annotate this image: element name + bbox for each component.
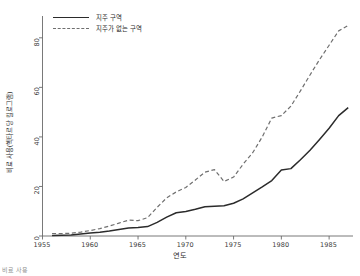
legend-label-landlord: 지주 구역: [89, 13, 122, 22]
x-tick-label: 1975: [225, 241, 242, 249]
legend-item-no-landlord: 지주가 없는 구역: [53, 23, 183, 34]
y-tick-label: 0: [33, 236, 41, 252]
x-tick-label: 1965: [129, 241, 146, 249]
chart-legend: 지주 구역 지주가 없는 구역: [53, 12, 183, 34]
legend-line-solid-icon: [53, 14, 89, 22]
y-tick-label: 80: [33, 38, 41, 54]
figure-footnote: 비료 사용: [2, 265, 28, 274]
y-tick-label: 40: [33, 137, 41, 153]
x-axis-title: 연도: [0, 250, 360, 260]
legend-label-no-landlord: 지주가 없는 구역: [89, 24, 143, 33]
y-axis-title: 비료 사용(헥타르당 킬로그램): [2, 62, 18, 202]
y-tick-label: 20: [33, 186, 41, 202]
series-line-2: [52, 25, 348, 233]
chart-axes: [39, 16, 353, 240]
fertilizer-use-chart-figure: 지주 구역 지주가 없는 구역 비료 사용(헥타르당 킬로그램) 연도 1955…: [0, 0, 360, 276]
legend-line-dashed-icon: [53, 25, 89, 33]
y-axis-title-text: 비료 사용(헥타르당 킬로그램): [6, 91, 15, 173]
x-tick-label: 1960: [81, 241, 98, 249]
x-tick-label: 1970: [177, 241, 194, 249]
x-tick-label: 1985: [320, 241, 337, 249]
chart-plot-area: [0, 0, 360, 276]
series-line-1: [52, 108, 348, 236]
y-tick-label: 60: [33, 87, 41, 103]
chart-series: [52, 25, 348, 235]
x-tick-label: 1980: [272, 241, 289, 249]
legend-item-landlord: 지주 구역: [53, 12, 183, 23]
